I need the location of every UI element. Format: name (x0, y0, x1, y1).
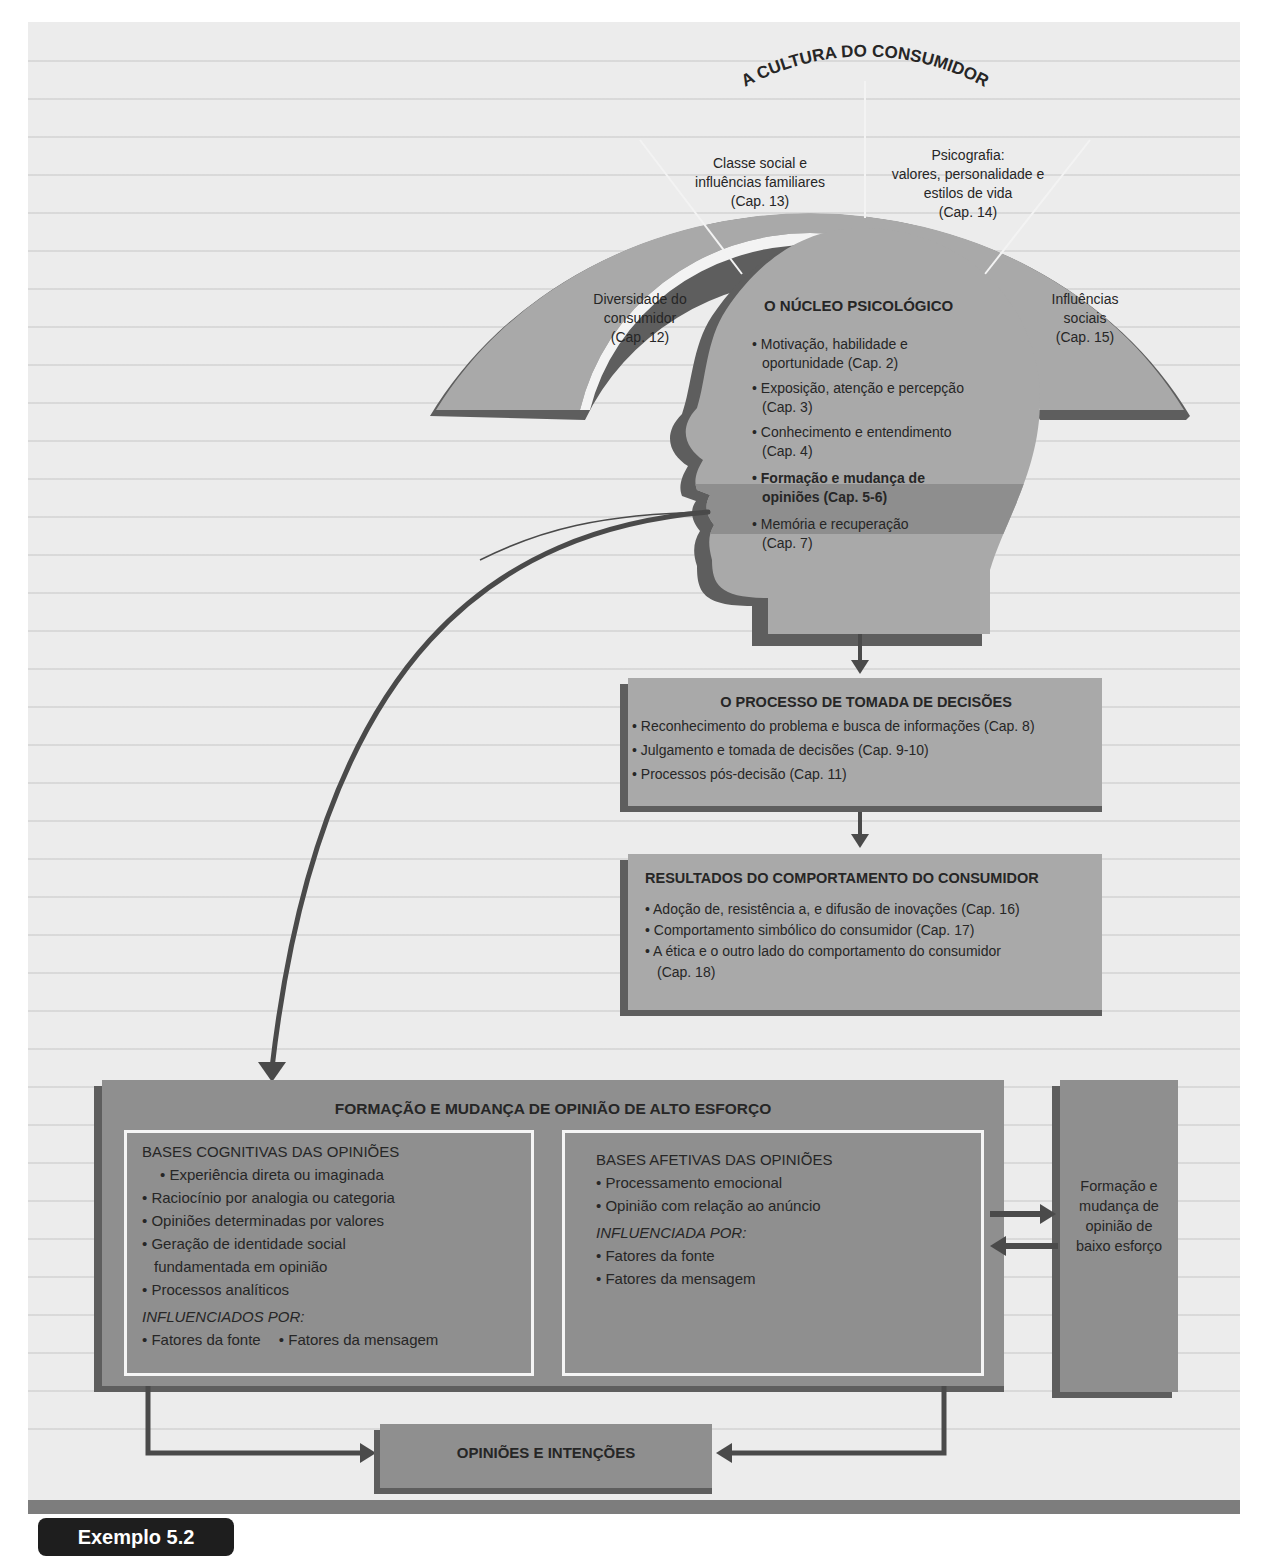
curved-arrow-head (258, 1062, 286, 1082)
segment-diversity: Diversidade do consumidor (Cap. 12) (560, 290, 720, 347)
outcome-item-continued: (Cap. 18) (645, 962, 1095, 983)
affective-influenced-label: INFLUENCIADA POR: (596, 1221, 976, 1244)
low-effort-label: Formação e mudança de opinião de baixo e… (1060, 1176, 1178, 1256)
outcome-item: Adoção de, resistência a, e difusão de i… (645, 899, 1095, 920)
connector-left (148, 1386, 362, 1453)
outcome-item: A ética e o outro lado do comportamento … (645, 941, 1095, 962)
decision-item: Processos pós-decisão (Cap. 11) (632, 762, 1100, 786)
cognitive-heading: BASES COGNITIVAS DAS OPINIÕES (142, 1140, 532, 1163)
decision-item: Julgamento e tomada de decisões (Cap. 9-… (632, 738, 1100, 762)
decision-process: O PROCESSO DE TOMADA DE DECISÕES Reconhe… (632, 690, 1100, 786)
attitudes-intentions-title: OPINIÕES E INTENÇÕES (380, 1444, 712, 1461)
footer-bar (28, 1500, 1240, 1514)
figure-label: Exemplo 5.2 (38, 1518, 234, 1556)
segment-social-class: Classe social e influências familiares (… (670, 154, 850, 211)
decision-item: Reconhecimento do problema e busca de in… (632, 714, 1100, 738)
outcomes-title: RESULTADOS DO COMPORTAMENTO DO CONSUMIDO… (645, 868, 1095, 889)
psych-item: Motivação, habilidade e oportunidade (Ca… (752, 335, 1022, 373)
outcomes: RESULTADOS DO COMPORTAMENTO DO CONSUMIDO… (645, 868, 1095, 983)
psych-item: Memória e recuperação (Cap. 7) (752, 515, 1022, 553)
cognitive-influenced-label: INFLUENCIADOS POR: (142, 1305, 532, 1328)
psych-item-highlighted: Formação e mudança de opiniões (Cap. 5-6… (752, 469, 1022, 507)
outcome-item: Comportamento simbólico do consumidor (C… (645, 920, 1095, 941)
affective-bases: BASES AFETIVAS DAS OPINIÕES Processament… (596, 1148, 976, 1290)
affective-heading: BASES AFETIVAS DAS OPINIÕES (596, 1148, 976, 1171)
segment-psychographics: Psicografia: valores, personalidade e es… (868, 146, 1068, 222)
cognitive-bases: BASES COGNITIVAS DAS OPINIÕES Experiênci… (142, 1140, 532, 1351)
segment-social-influences: Influências sociais (Cap. 15) (1030, 290, 1140, 347)
psych-core-title: O NÚCLEO PSICOLÓGICO (764, 296, 1022, 315)
psych-item: Exposição, atenção e percepção (Cap. 3) (752, 379, 1022, 417)
connector-right (730, 1386, 944, 1453)
psych-core: O NÚCLEO PSICOLÓGICO Motivação, habilida… (752, 296, 1022, 553)
decision-process-title: O PROCESSO DE TOMADA DE DECISÕES (632, 690, 1100, 714)
high-effort-title: FORMAÇÃO E MUDANÇA DE OPINIÃO DE ALTO ES… (102, 1100, 1004, 1118)
psych-item: Conhecimento e entendimento (Cap. 4) (752, 423, 1022, 461)
